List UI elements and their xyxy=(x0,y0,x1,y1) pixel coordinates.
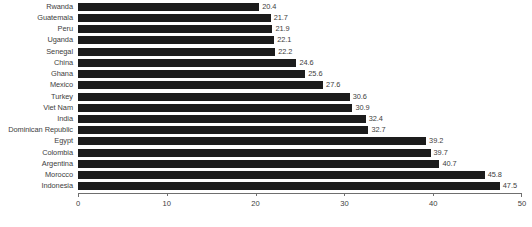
category-label: Senegal xyxy=(0,48,73,56)
x-axis-tick-label: 20 xyxy=(251,199,259,208)
bar-chart: Rwanda20.4Guatemala21.7Peru21.9Uganda22.… xyxy=(0,0,532,227)
x-axis-tick-label: 50 xyxy=(518,199,526,208)
bar xyxy=(78,36,274,44)
bar-value-label: 22.2 xyxy=(278,48,292,56)
bar xyxy=(78,81,323,89)
category-label: Uganda xyxy=(0,36,73,44)
bar xyxy=(78,14,271,22)
bar-value-label: 27.6 xyxy=(326,81,340,89)
bar-value-label: 39.2 xyxy=(429,137,443,145)
bar-row: Indonesia47.5 xyxy=(0,182,532,190)
bar-value-label: 25.6 xyxy=(308,70,322,78)
bar xyxy=(78,182,500,190)
bar-row: Peru21.9 xyxy=(0,25,532,33)
x-axis-tick-label: 0 xyxy=(76,199,80,208)
category-label: China xyxy=(0,59,73,67)
category-label: Rwanda xyxy=(0,3,73,11)
bar-value-label: 22.1 xyxy=(277,36,291,44)
category-label: Colombia xyxy=(0,149,73,157)
bar-value-label: 32.4 xyxy=(369,115,383,123)
bar-row: Colombia39.7 xyxy=(0,149,532,157)
bar-row: Argentina40.7 xyxy=(0,160,532,168)
bar xyxy=(78,3,259,11)
bar-row: Viet Nam30.9 xyxy=(0,104,532,112)
category-label: Dominican Republic xyxy=(0,126,73,134)
bar-row: Turkey30.6 xyxy=(0,93,532,101)
bar xyxy=(78,104,352,112)
bar-row: Rwanda20.4 xyxy=(0,3,532,11)
bar xyxy=(78,126,368,134)
bar-value-label: 40.7 xyxy=(442,160,456,168)
x-axis-tick-mark xyxy=(344,193,345,196)
plot-area: Rwanda20.4Guatemala21.7Peru21.9Uganda22.… xyxy=(0,0,532,194)
bar xyxy=(78,149,431,157)
bar-row: Egypt39.2 xyxy=(0,137,532,145)
category-label: Viet Nam xyxy=(0,104,73,112)
x-axis-line xyxy=(78,193,522,194)
bar xyxy=(78,70,305,78)
category-label: Turkey xyxy=(0,93,73,101)
x-axis-tick-label: 30 xyxy=(340,199,348,208)
bar-value-label: 47.5 xyxy=(503,182,517,190)
bar xyxy=(78,115,366,123)
bar-row: India32.4 xyxy=(0,115,532,123)
category-label: Guatemala xyxy=(0,14,73,22)
bar-row: Morocco45.8 xyxy=(0,171,532,179)
category-label: Ghana xyxy=(0,70,73,78)
bar-value-label: 20.4 xyxy=(262,3,276,11)
bar-row: Guatemala21.7 xyxy=(0,14,532,22)
x-axis-tick-mark xyxy=(433,193,434,196)
category-label: Mexico xyxy=(0,81,73,89)
category-label: Peru xyxy=(0,25,73,33)
bar xyxy=(78,59,296,67)
bar-value-label: 39.7 xyxy=(434,149,448,157)
bar-row: China24.6 xyxy=(0,59,532,67)
bar xyxy=(78,48,275,56)
bar-value-label: 30.6 xyxy=(353,93,367,101)
bar-value-label: 45.8 xyxy=(488,171,502,179)
bar-value-label: 21.7 xyxy=(274,14,288,22)
bar xyxy=(78,93,350,101)
bar-value-label: 30.9 xyxy=(355,104,369,112)
bar-row: Senegal22.2 xyxy=(0,48,532,56)
bar xyxy=(78,25,272,33)
bar-row: Uganda22.1 xyxy=(0,36,532,44)
x-axis-tick-mark xyxy=(256,193,257,196)
x-axis-tick-label: 10 xyxy=(163,199,171,208)
x-axis-tick-label: 40 xyxy=(429,199,437,208)
category-label: Egypt xyxy=(0,137,73,145)
bar-value-label: 32.7 xyxy=(371,126,385,134)
bar xyxy=(78,160,439,168)
bar xyxy=(78,171,485,179)
x-axis-end-cap xyxy=(521,193,522,197)
bar-value-label: 21.9 xyxy=(275,25,289,33)
category-label: Indonesia xyxy=(0,182,73,190)
bar-row: Dominican Republic32.7 xyxy=(0,126,532,134)
x-axis-tick-mark xyxy=(167,193,168,196)
bar xyxy=(78,137,426,145)
category-label: Morocco xyxy=(0,171,73,179)
bar-row: Ghana25.6 xyxy=(0,70,532,78)
x-axis-start-cap xyxy=(78,193,79,197)
bar-value-label: 24.6 xyxy=(299,59,313,67)
category-label: India xyxy=(0,115,73,123)
bar-row: Mexico27.6 xyxy=(0,81,532,89)
category-label: Argentina xyxy=(0,160,73,168)
